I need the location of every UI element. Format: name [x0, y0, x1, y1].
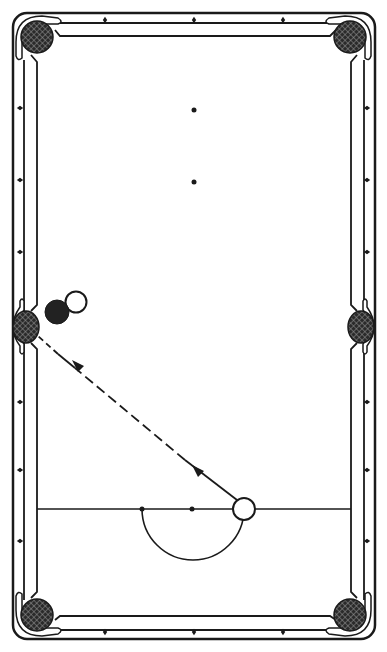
head-string-area — [37, 509, 351, 560]
pocket-top-left — [16, 16, 61, 60]
right-cushion-lower — [351, 343, 357, 598]
d-semicircle — [142, 509, 244, 560]
d-left-spot — [140, 507, 145, 512]
pocket-top-right — [326, 16, 371, 60]
upper-spot — [192, 180, 197, 185]
diamond-left-rail — [17, 178, 23, 182]
arrow-icon — [192, 465, 204, 477]
pocket-middle-right — [348, 299, 374, 354]
diamond-left-rail — [17, 539, 23, 543]
table-canvas — [0, 0, 387, 652]
rails — [24, 23, 364, 630]
right-cushion-upper — [351, 55, 357, 311]
shot-line-dashed-end — [38, 336, 58, 354]
diamond-left-rail — [17, 400, 23, 404]
diamond-left-rail — [17, 250, 23, 254]
table-outer-frame — [13, 13, 375, 639]
diamond-left-rail — [17, 106, 23, 110]
left-cushion-lower — [31, 343, 37, 598]
table-spots — [192, 108, 197, 185]
pocket-bottom-left — [16, 592, 61, 636]
bottom-cushion — [55, 616, 336, 620]
pool-table-diagram — [0, 0, 387, 652]
shot-path — [38, 336, 237, 500]
pocket-bottom-right — [326, 592, 371, 636]
foot-spot — [192, 108, 197, 113]
left-cushion-upper — [31, 55, 37, 311]
shot-line-dashed — [75, 368, 185, 460]
top-cushion — [55, 30, 336, 36]
diamond-left-rail — [17, 468, 23, 472]
shot-line-solid-end — [58, 354, 75, 368]
object-ball — [45, 300, 69, 324]
head-spot — [190, 507, 195, 512]
cue-ball — [233, 498, 255, 520]
